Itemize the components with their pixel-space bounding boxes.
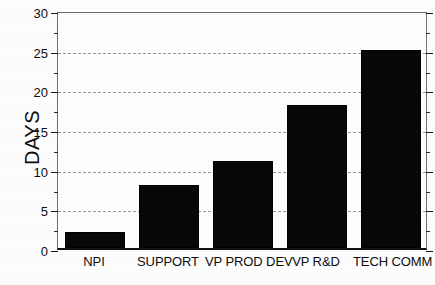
y-axis-minor-tick-right (426, 152, 430, 153)
y-axis-tick (51, 92, 58, 93)
x-axis-tick-label: VP PROD DEV (205, 254, 279, 269)
x-axis-tick-label: TECH COMM (353, 254, 427, 269)
y-axis-tick (51, 211, 58, 212)
y-axis-tick (51, 53, 58, 54)
y-axis-minor-tick (54, 152, 58, 153)
x-axis-tick-label: VP R&D (279, 254, 353, 269)
y-axis-minor-tick (54, 73, 58, 74)
y-axis-tick (51, 132, 58, 133)
y-axis-minor-tick-right (426, 112, 430, 113)
y-axis-tick-right (426, 251, 433, 252)
bar (139, 185, 199, 248)
y-axis-tick-right (426, 13, 433, 14)
y-axis-minor-tick (54, 33, 58, 34)
y-axis-tick-label: 10 (34, 164, 48, 179)
y-axis-minor-tick (54, 112, 58, 113)
y-axis-tick (51, 172, 58, 173)
y-axis-tick-label: 5 (41, 204, 48, 219)
y-axis-tick-right (426, 53, 433, 54)
y-axis-tick-label: 20 (34, 85, 48, 100)
y-axis-tick-label: 15 (34, 125, 48, 140)
y-axis-tick-label: 30 (34, 6, 48, 21)
x-axis-tick-label: NPI (57, 254, 131, 269)
y-axis-tick-right (426, 92, 433, 93)
y-axis-tick (51, 251, 58, 252)
y-axis-minor-tick-right (426, 192, 430, 193)
plot-area: 051015202530 (57, 12, 427, 250)
x-axis-tick-label: SUPPORT (131, 254, 205, 269)
y-axis-minor-tick-right (426, 33, 430, 34)
bar (287, 105, 347, 248)
y-axis-tick-label: 0 (41, 244, 48, 259)
y-axis-tick-label: 25 (34, 45, 48, 60)
bar (213, 161, 273, 248)
bar (65, 232, 125, 248)
y-axis-tick-right (426, 132, 433, 133)
bar-chart: DAYS 051015202530 NPISUPPORTVP PROD DEVV… (0, 0, 435, 285)
y-axis-tick-right (426, 211, 433, 212)
y-axis-tick-right (426, 172, 433, 173)
y-axis-minor-tick (54, 231, 58, 232)
y-axis-minor-tick-right (426, 231, 430, 232)
bar (361, 50, 421, 248)
y-axis-minor-tick-right (426, 73, 430, 74)
y-axis-minor-tick (54, 192, 58, 193)
y-axis-tick (51, 13, 58, 14)
